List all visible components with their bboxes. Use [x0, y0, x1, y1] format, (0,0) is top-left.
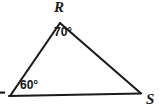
triangle-side-base: [9, 94, 141, 97]
angle-label-70-degrees: 70°: [54, 26, 72, 38]
angle-label-60-degrees: 60°: [20, 79, 38, 91]
vertex-label-r: R: [54, 0, 64, 15]
cut-off-vertex-label-mark: [0, 92, 5, 94]
geometry-figure: R S 70° 60°: [0, 0, 162, 108]
vertex-label-s: S: [146, 92, 154, 107]
